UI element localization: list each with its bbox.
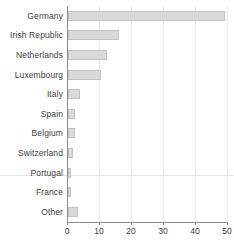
tick-label-30: 30 [158,226,167,236]
tick-mark-40 [195,222,196,225]
category-label-spain: Spain [41,109,63,119]
bar-switzerland [68,148,73,158]
bar-luxembourg [68,70,101,80]
category-label-irish-republic: Irish Republic [10,30,63,40]
category-label-luxembourg: Luxembourg [15,70,63,80]
table-row: Italy [0,84,234,104]
bar-irish-republic [68,30,119,40]
table-row: Netherlands [0,45,234,65]
bar-netherlands [68,50,107,60]
tick-mark-50 [227,222,228,225]
category-label-germany: Germany [27,11,63,21]
table-row: Other [0,202,234,222]
bar-portugal [68,168,71,178]
bar-italy [68,89,80,99]
category-label-other: Other [41,207,63,217]
bar-spain [68,109,75,119]
bar-belgium [68,128,75,138]
category-label-netherlands: Netherlands [16,50,63,60]
category-label-portugal: Portugal [31,168,63,178]
tick-label-10: 10 [94,226,103,236]
bar-other [68,207,78,217]
x-axis-ticks: 0 10 20 30 40 50 [0,222,234,238]
category-label-france: France [36,187,63,197]
category-label-italy: Italy [47,89,63,99]
bar-france [68,187,71,197]
table-row: Irish Republic [0,26,234,46]
table-row: France [0,182,234,202]
table-row: Portugal [0,163,234,183]
tick-mark-30 [163,222,164,225]
tick-mark-0 [67,222,68,225]
category-label-belgium: Belgium [32,128,63,138]
tick-label-20: 20 [126,226,135,236]
bar-chart: Germany Irish Republic Netherlands Luxem… [0,0,234,249]
table-row: Belgium [0,124,234,144]
table-row: Luxembourg [0,65,234,85]
bar-rows: Germany Irish Republic Netherlands Luxem… [0,0,234,222]
bar-germany [68,11,225,21]
tick-label-0: 0 [65,226,70,236]
tick-mark-10 [99,222,100,225]
table-row: Germany [0,6,234,26]
tick-label-50: 50 [222,226,231,236]
table-row: Spain [0,104,234,124]
category-label-switzerland: Switzerland [18,148,63,158]
table-row: Switzerland [0,143,234,163]
tick-label-40: 40 [190,226,199,236]
tick-mark-20 [131,222,132,225]
